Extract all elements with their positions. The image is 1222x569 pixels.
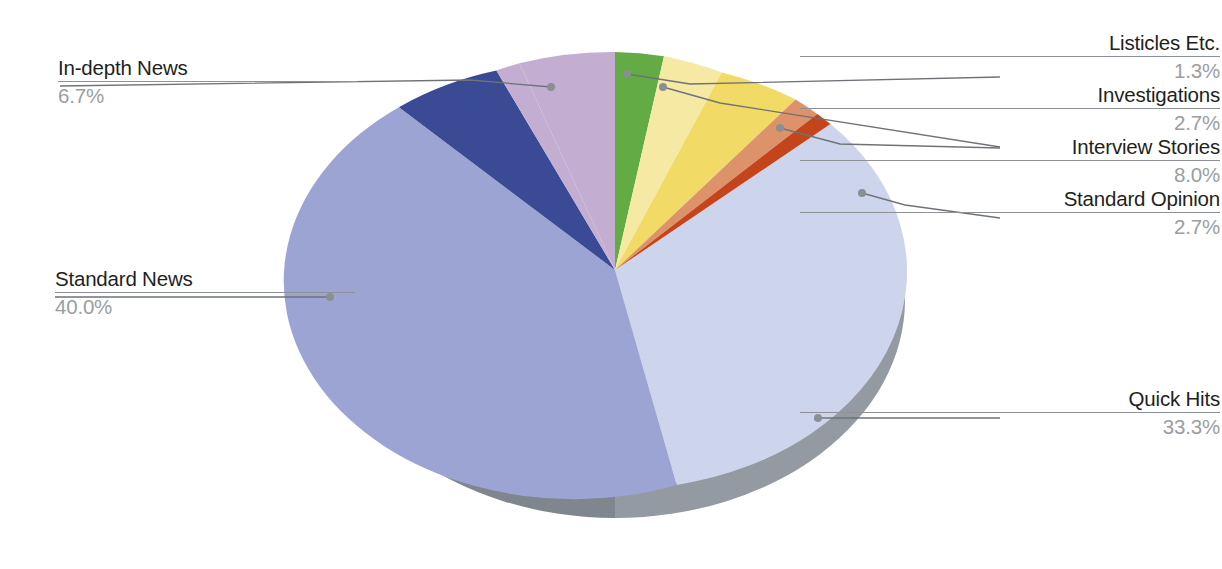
callout-quick-hits-pct: 33.3% (800, 414, 1220, 439)
callout-investigations: Investigations 2.7% (800, 82, 1220, 135)
dot-interview (776, 124, 784, 132)
dot-listicles (623, 70, 631, 78)
callout-standard-opinion-name: Standard Opinion (800, 186, 1220, 211)
callout-quick-hits-name: Quick Hits (800, 386, 1220, 411)
dot-investigations (659, 83, 667, 91)
dot-in-depth (547, 83, 555, 91)
callout-listicles-etc-name: Listicles Etc. (800, 30, 1220, 55)
callout-rule (800, 412, 1220, 413)
callout-standard-opinion-pct: 2.7% (800, 214, 1220, 239)
callout-rule (800, 108, 1220, 109)
callout-rule (800, 212, 1220, 213)
callout-listicles-etc: Listicles Etc. 1.3% (800, 30, 1220, 83)
callout-standard-news-name: Standard News (55, 266, 355, 291)
callout-standard-news: Standard News 40.0% (55, 266, 355, 319)
callout-rule (55, 292, 355, 293)
callout-listicles-etc-pct: 1.3% (800, 58, 1220, 83)
callout-rule (800, 160, 1220, 161)
callout-standard-news-pct: 40.0% (55, 294, 355, 319)
callout-in-depth-news: In-depth News 6.7% (58, 55, 358, 108)
callout-investigations-pct: 2.7% (800, 110, 1220, 135)
callout-in-depth-news-pct: 6.7% (58, 83, 358, 108)
callout-investigations-name: Investigations (800, 82, 1220, 107)
callout-in-depth-news-name: In-depth News (58, 55, 358, 80)
callout-interview-stories-name: Interview Stories (800, 134, 1220, 159)
callout-standard-opinion: Standard Opinion 2.7% (800, 186, 1220, 239)
callout-interview-stories-pct: 8.0% (800, 162, 1220, 187)
callout-quick-hits: Quick Hits 33.3% (800, 386, 1220, 439)
callout-rule (58, 81, 358, 82)
chart-canvas: Listicles Etc. 1.3% Investigations 2.7% … (0, 0, 1222, 569)
callout-rule (800, 56, 1220, 57)
callout-interview-stories: Interview Stories 8.0% (800, 134, 1220, 187)
